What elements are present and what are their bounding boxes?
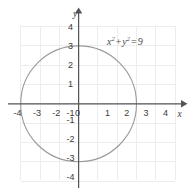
y-axis-label: y (73, 10, 77, 20)
y-tick-label-1: 1 (68, 80, 73, 89)
x-axis-arrow-icon (181, 100, 188, 107)
x-tick-label--4: -4 (14, 109, 22, 118)
equation-right-hand-side: 9 (138, 36, 143, 47)
x-tick-label--3: -3 (33, 109, 41, 118)
x-tick-label-1: 1 (105, 109, 110, 118)
coordinate-plane-figure: -4 -3 -2 -1 0 1 2 3 4 4 3 2 1 -1 -2 -3 -… (0, 0, 191, 194)
x-tick-label--2: -2 (52, 109, 60, 118)
y-tick-label-3: 3 (68, 42, 73, 51)
x-tick-label-2: 2 (124, 109, 129, 118)
x-axis-label: x (178, 110, 182, 120)
equation-equals-sign: = (130, 36, 138, 47)
y-tick-label-2: 2 (68, 61, 73, 70)
y-tick-label--3: -3 (66, 154, 74, 163)
x-tick-label-4: 4 (163, 109, 168, 118)
y-tick-label--2: -2 (66, 135, 74, 144)
y-tick-label-4: 4 (68, 23, 73, 32)
axis-arrowheads (75, 8, 188, 108)
x-tick-label-0: 0 (75, 109, 80, 118)
y-tick-label--4: -4 (66, 173, 74, 182)
x-tick-label-3: 3 (144, 109, 149, 118)
y-tick-label--1: -1 (66, 116, 74, 125)
equation-annotation: x2+y2=9 (107, 37, 143, 47)
graph-canvas (0, 0, 191, 194)
